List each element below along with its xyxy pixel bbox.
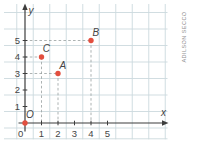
y-tick-label: 3 [15, 68, 20, 79]
x-tick-label: 1 [39, 128, 44, 139]
y-tick-label: 4 [15, 51, 20, 62]
point-label-A: A [58, 60, 66, 71]
point-label-C: C [43, 43, 51, 54]
figure: 01234512345xyOCAB ADILSON SECCO [0, 0, 201, 145]
y-axis-arrowhead-icon [22, 4, 27, 11]
x-tick-label: 2 [55, 128, 60, 139]
tick-marks [23, 41, 108, 126]
y-tick-label: 2 [15, 84, 20, 95]
x-tick-label: 4 [88, 128, 93, 139]
guide-lines [25, 41, 91, 124]
axes [19, 9, 163, 132]
y-tick-label: 1 [15, 101, 20, 112]
point-B [88, 38, 93, 43]
point-O [22, 120, 27, 125]
point-label-B: B [92, 27, 99, 38]
x-tick-label: 3 [72, 128, 77, 139]
y-axis-label: y [28, 5, 35, 16]
coordinate-plane: 01234512345xyOCAB [0, 0, 201, 145]
x-tick-label: 0 [18, 128, 23, 139]
credit-text: ADILSON SECCO [181, 11, 187, 62]
point-label-O: O [26, 109, 34, 120]
x-axis-label: x [160, 107, 167, 118]
point-A [55, 71, 60, 76]
y-tick-label: 5 [15, 35, 20, 46]
point-C [39, 54, 44, 59]
x-tick-label: 5 [105, 128, 110, 139]
